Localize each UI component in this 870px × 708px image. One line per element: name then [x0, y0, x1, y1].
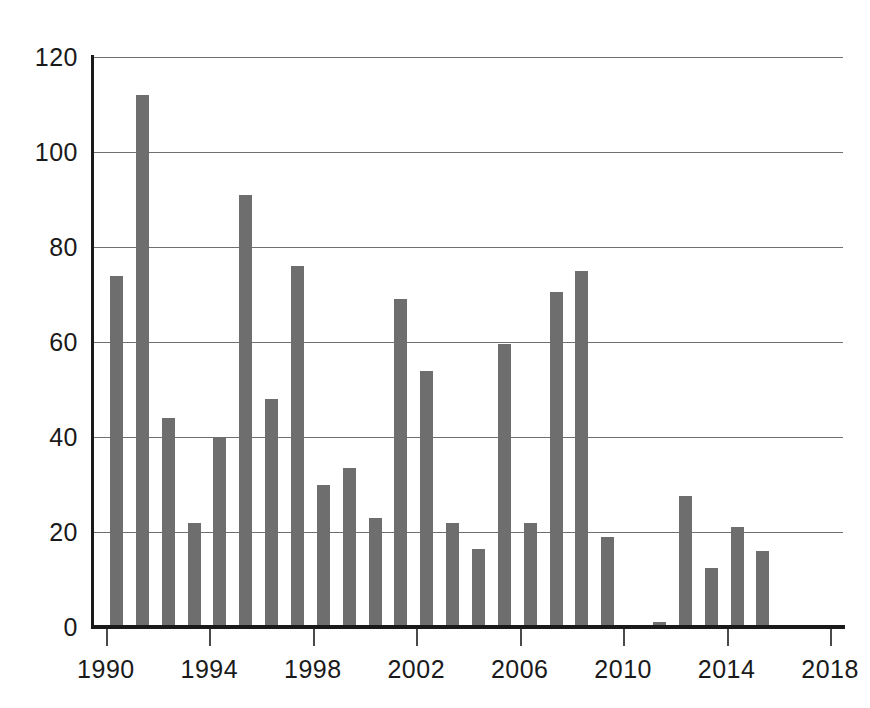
x-tick-label-2006: 2006 [491, 655, 549, 684]
x-tick-label-1990: 1990 [77, 655, 135, 684]
x-tick-mark-2006 [520, 629, 522, 646]
x-axis-line [91, 625, 845, 629]
y-tick-label-80: 80 [49, 233, 78, 262]
y-tick-label-100: 100 [35, 138, 78, 167]
x-tick-mark-1990 [106, 629, 108, 646]
x-tick-mark-2014 [727, 629, 729, 646]
gridline-40 [93, 437, 843, 438]
bar-2009 [601, 537, 614, 627]
bar-2012 [679, 496, 692, 627]
bar-2005 [498, 344, 511, 627]
x-tick-label-1994: 1994 [181, 655, 239, 684]
x-tick-label-2010: 2010 [594, 655, 652, 684]
bar-1990 [110, 276, 123, 628]
bar-2007 [550, 292, 563, 627]
bar-2006 [524, 523, 537, 628]
gridline-60 [93, 342, 843, 343]
bar-2015 [756, 551, 769, 627]
bar-1991 [136, 95, 149, 627]
x-tick-label-2018: 2018 [801, 655, 859, 684]
bar-2014 [731, 527, 744, 627]
gridline-120 [93, 57, 843, 58]
gridline-80 [93, 247, 843, 248]
bar-2008 [575, 271, 588, 627]
y-tick-label-40: 40 [49, 423, 78, 452]
y-tick-label-120: 120 [35, 43, 78, 72]
x-tick-label-2014: 2014 [698, 655, 756, 684]
x-tick-mark-2010 [623, 629, 625, 646]
plot-area [93, 57, 843, 627]
gridline-100 [93, 152, 843, 153]
x-tick-label-2002: 2002 [387, 655, 445, 684]
bar-2002 [420, 371, 433, 628]
bar-1998 [317, 485, 330, 628]
y-tick-label-0: 0 [64, 613, 78, 642]
bar-2004 [472, 549, 485, 627]
bar-1995 [239, 195, 252, 627]
bar-2000 [369, 518, 382, 627]
bar-2001 [394, 299, 407, 627]
x-tick-mark-1994 [209, 629, 211, 646]
bar-1992 [162, 418, 175, 627]
y-axis-tick-labels: 020406080100120 [0, 0, 78, 708]
bar-1997 [291, 266, 304, 627]
x-tick-mark-1998 [313, 629, 315, 646]
x-tick-mark-2018 [830, 629, 832, 646]
bar-2003 [446, 523, 459, 628]
y-tick-label-60: 60 [49, 328, 78, 357]
bar-1999 [343, 468, 356, 627]
bar-2013 [705, 568, 718, 627]
x-tick-mark-2002 [416, 629, 418, 646]
y-axis-line [91, 55, 94, 629]
bar-1996 [265, 399, 278, 627]
y-tick-label-20: 20 [49, 518, 78, 547]
bar-1994 [213, 437, 226, 627]
bar-chart: 020406080100120 199019941998200220062010… [0, 0, 870, 708]
bar-1993 [188, 523, 201, 628]
x-tick-label-1998: 1998 [284, 655, 342, 684]
